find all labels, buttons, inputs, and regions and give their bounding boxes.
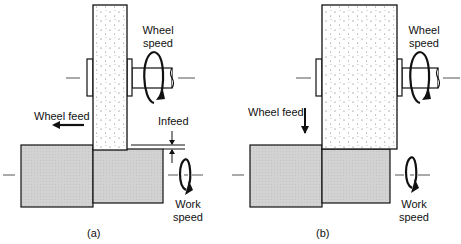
- work-speed-label-line1: Work: [394, 198, 434, 211]
- grinding-wheel: [93, 5, 127, 150]
- work-speed-label: Work speed: [394, 198, 434, 224]
- wheel-speed-label-line1: Wheel: [404, 24, 444, 37]
- wheel-speed-label-line2: speed: [138, 37, 178, 50]
- wheel-speed-label: Wheel speed: [138, 24, 178, 50]
- wheel-speed-label: Wheel speed: [404, 24, 444, 50]
- wheel-feed-label: Wheel feed: [34, 110, 90, 123]
- work-speed-label-line2: speed: [394, 211, 434, 224]
- grinding-wheel: [322, 5, 397, 149]
- wheel-flange-left: [316, 59, 322, 96]
- work-speed-label: Work speed: [168, 198, 208, 224]
- caption-b: (b): [316, 227, 329, 240]
- wheel-shaft: [132, 68, 174, 88]
- wheel-flange-left: [87, 59, 93, 96]
- wheel-speed-label-line1: Wheel: [138, 24, 178, 37]
- workpiece: [250, 145, 390, 207]
- work-speed-label-line2: speed: [168, 211, 208, 224]
- caption-a: (a): [87, 227, 100, 240]
- workpiece: [21, 145, 163, 207]
- wheel-shaft: [402, 68, 440, 88]
- wheel-speed-label-line2: speed: [404, 37, 444, 50]
- infeed-label: Infeed: [158, 115, 189, 128]
- work-rotation-arrow-icon: [180, 159, 193, 195]
- wheel-flange-right: [127, 59, 132, 96]
- work-speed-label-line1: Work: [168, 198, 208, 211]
- wheel-flange-right: [397, 59, 402, 96]
- wheel-feed-label: Wheel feed: [248, 106, 304, 119]
